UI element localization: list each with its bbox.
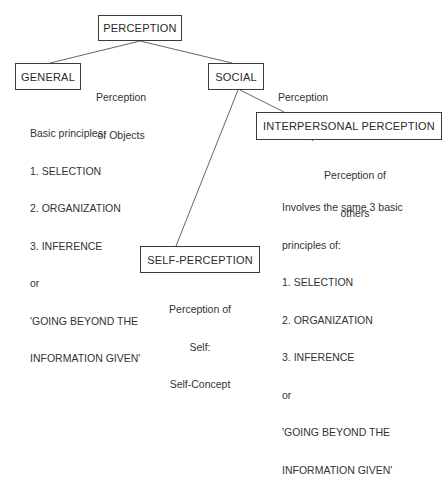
- interpersonal-principles: Involves the same 3 basic principles of:…: [282, 176, 403, 478]
- node-interpersonal-label: INTERPERSONAL PERCEPTION: [263, 120, 435, 132]
- node-perception: PERCEPTION: [98, 15, 182, 41]
- general-principles: Basic principles: 1. SELECTION 2. ORGANI…: [30, 102, 140, 377]
- node-social: SOCIAL: [208, 63, 264, 90]
- node-social-label: SOCIAL: [215, 71, 257, 83]
- node-general: GENERAL: [15, 63, 81, 90]
- edge-perception-social: [140, 41, 232, 63]
- social-caption: Perception of People: [278, 66, 328, 154]
- node-self-perception: SELF-PERCEPTION: [140, 246, 260, 273]
- node-perception-label: PERCEPTION: [103, 22, 177, 34]
- node-self-perception-label: SELF-PERCEPTION: [147, 254, 253, 266]
- node-interpersonal: INTERPERSONAL PERCEPTION: [256, 112, 442, 140]
- self-caption: Perception of Self: Self-Concept: [150, 278, 250, 403]
- edge-social-self: [176, 90, 238, 246]
- node-general-label: GENERAL: [21, 71, 75, 83]
- edge-perception-general: [50, 41, 140, 63]
